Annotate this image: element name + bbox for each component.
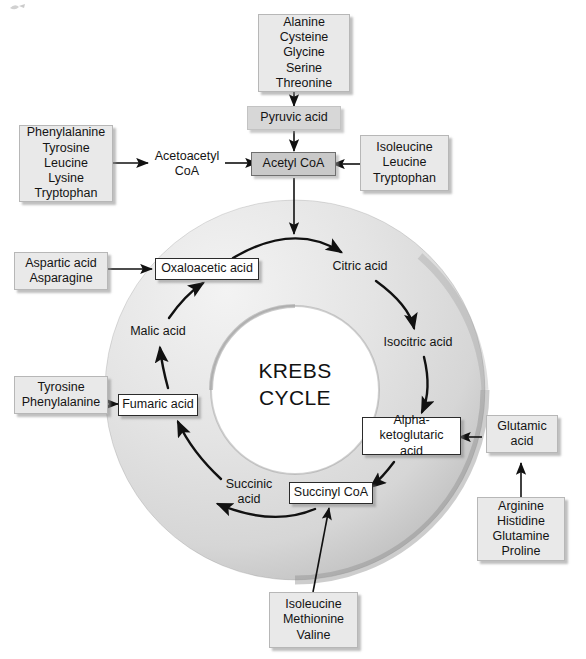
node-isocitric-acid: Isocitric acid xyxy=(382,334,454,352)
node-succinic-acid: Succinic acid xyxy=(213,483,285,501)
scan-artifact xyxy=(10,4,25,9)
input-box-left-upper-amino-acids: Phenylalanine Tyrosine Leucine Lysine Tr… xyxy=(19,125,113,202)
node-acetyl-coa: Acetyl CoA xyxy=(251,152,336,176)
input-box-aspartic-asparagine: Aspartic acid Asparagine xyxy=(14,252,108,290)
input-box-top-amino-acids: Alanine Cysteine Glycine Serine Threonin… xyxy=(258,14,350,92)
input-box-right-upper-amino-acids: Isoleucine Leucine Tryptophan xyxy=(360,135,449,191)
input-box-glutamic-acid: Glutamic acid xyxy=(486,415,558,453)
input-box-bottom-amino-acids: Isoleucine Methionine Valine xyxy=(269,592,358,648)
node-acetoacetyl-coa: Acetoacetyl CoA xyxy=(148,149,226,179)
node-malic-acid: Malic acid xyxy=(125,323,191,341)
node-pyruvic-acid: Pyruvic acid xyxy=(247,106,341,130)
input-box-arginine-group: Arginine Histidine Glutamine Proline xyxy=(477,497,565,561)
node-oxaloacetic-acid: Oxaloacetic acid xyxy=(155,258,259,280)
krebs-cycle-diagram: Alanine Cysteine Glycine Serine Threonin… xyxy=(0,0,586,659)
cycle-center-title: KREBS CYCLE xyxy=(225,350,365,420)
node-alpha-ketoglutaric-acid: Alpha-ketoglutaric acid xyxy=(362,417,461,455)
input-box-tyrosine-phenylalanine: Tyrosine Phenylalanine xyxy=(14,376,108,414)
node-fumaric-acid: Fumaric acid xyxy=(118,394,198,416)
node-citric-acid: Citric acid xyxy=(327,258,393,276)
node-succinyl-coa: Succinyl CoA xyxy=(289,482,373,504)
